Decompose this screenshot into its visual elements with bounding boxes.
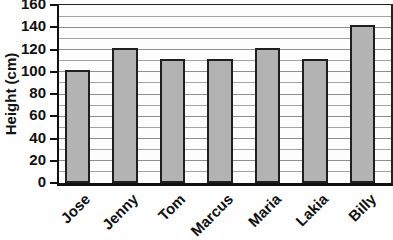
y-axis-tick-label: 0 xyxy=(10,174,46,190)
y-axis-tick xyxy=(50,160,57,162)
y-axis-tick xyxy=(50,26,57,28)
y-axis-tick xyxy=(50,182,57,184)
y-axis-tick xyxy=(50,49,57,51)
y-axis-tick-label: 120 xyxy=(10,41,46,57)
gridline xyxy=(59,49,391,50)
y-axis-tick xyxy=(50,93,57,95)
y-axis-tick-label: 20 xyxy=(10,152,46,168)
y-axis-tick xyxy=(50,115,57,117)
y-axis-tick-label: 160 xyxy=(10,0,46,12)
gridline xyxy=(59,27,391,28)
bar-marcus xyxy=(207,59,233,183)
gridline xyxy=(59,16,391,17)
bar-maria xyxy=(255,48,281,184)
y-axis-tick xyxy=(50,138,57,140)
y-axis-tick xyxy=(50,4,57,6)
y-axis-tick-label: 140 xyxy=(10,18,46,34)
bar-tom xyxy=(160,59,186,183)
bar-lakia xyxy=(302,59,328,183)
x-axis-label-jose: Jose xyxy=(31,191,93,240)
y-axis-tick-label: 100 xyxy=(10,63,46,79)
gridline xyxy=(59,38,391,39)
bar-billy xyxy=(350,25,376,183)
y-axis-tick-label: 80 xyxy=(10,85,46,101)
y-axis-tick-label: 60 xyxy=(10,107,46,123)
plot-area xyxy=(57,4,393,186)
bar-jose xyxy=(65,70,91,183)
y-axis-tick-label: 40 xyxy=(10,130,46,146)
y-axis-tick xyxy=(50,71,57,73)
bar-jenny xyxy=(112,48,138,184)
